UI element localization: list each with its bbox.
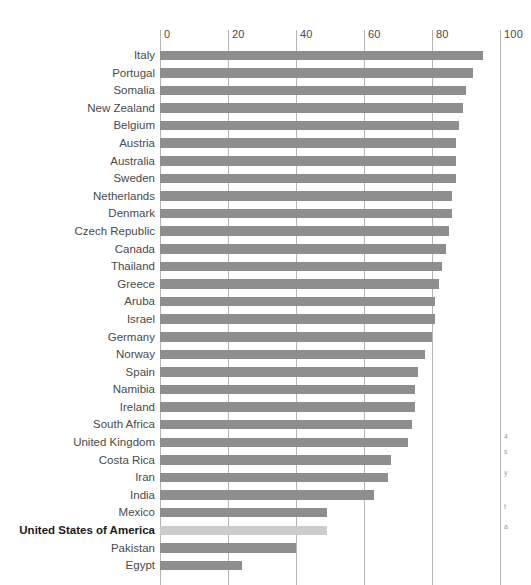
bar-label-united-kingdom: United Kingdom (0, 436, 155, 449)
right-margin-fragment: s (504, 447, 508, 456)
bar-row: Mexico (0, 506, 531, 524)
bar-row: Belgium (0, 119, 531, 137)
bar-row: Norway (0, 348, 531, 366)
bar-row: Somalia (0, 84, 531, 102)
bar-label-ireland: Ireland (0, 401, 155, 414)
bar-label-belgium: Belgium (0, 119, 155, 132)
bar-portugal (160, 68, 473, 78)
bar-greece (160, 279, 439, 289)
bar-row: Denmark (0, 207, 531, 225)
right-margin-fragment: a (504, 522, 508, 531)
bar-label-denmark: Denmark (0, 207, 155, 220)
bar-spain (160, 367, 418, 377)
bar-label-egypt: Egypt (0, 559, 155, 572)
bar-row: Thailand (0, 260, 531, 278)
bar-ireland (160, 402, 415, 412)
right-margin-fragment: 4 (504, 432, 508, 441)
bar-label-australia: Australia (0, 155, 155, 168)
bar-label-germany: Germany (0, 331, 155, 344)
bar-label-south-africa: South Africa (0, 418, 155, 431)
right-margin-text-fragments: 4syta (504, 20, 531, 580)
bar-new-zealand (160, 103, 463, 113)
bar-row: Greece (0, 278, 531, 296)
bar-label-canada: Canada (0, 243, 155, 256)
bar-italy (160, 51, 483, 61)
bar-costa-rica (160, 455, 391, 465)
bar-label-new-zealand: New Zealand (0, 102, 155, 115)
bar-label-czech-republic: Czech Republic (0, 225, 155, 238)
bar-mexico (160, 508, 327, 518)
bar-label-greece: Greece (0, 278, 155, 291)
bar-row: Italy (0, 49, 531, 67)
bar-belgium (160, 121, 459, 131)
bar-label-india: India (0, 489, 155, 502)
bar-row: Australia (0, 155, 531, 173)
x-tick-label-40: 40 (300, 28, 313, 40)
bar-label-thailand: Thailand (0, 260, 155, 273)
bar-label-pakistan: Pakistan (0, 542, 155, 555)
bar-label-namibia: Namibia (0, 383, 155, 396)
bar-row: Israel (0, 313, 531, 331)
bar-canada (160, 244, 446, 254)
bar-row: Egypt (0, 559, 531, 577)
x-tick-label-0: 0 (164, 28, 170, 40)
bar-row: Sweden (0, 172, 531, 190)
bar-label-united-states-of-america: United States of America (0, 524, 155, 537)
bar-thailand (160, 262, 442, 272)
bar-denmark (160, 209, 452, 219)
bar-label-portugal: Portugal (0, 67, 155, 80)
bar-netherlands (160, 191, 452, 201)
bar-label-austria: Austria (0, 137, 155, 150)
bar-label-italy: Italy (0, 49, 155, 62)
bar-pakistan (160, 543, 296, 553)
bar-label-netherlands: Netherlands (0, 190, 155, 203)
bar-rows: ItalyPortugalSomaliaNew ZealandBelgiumAu… (0, 49, 531, 577)
bar-czech-republic (160, 226, 449, 236)
bar-row: New Zealand (0, 102, 531, 120)
bar-south-africa (160, 420, 412, 430)
bar-germany (160, 332, 432, 342)
bar-egypt (160, 561, 242, 571)
bar-united-states-of-america (160, 526, 327, 536)
bar-norway (160, 350, 425, 360)
bar-israel (160, 314, 435, 324)
bar-row: South Africa (0, 418, 531, 436)
bar-label-somalia: Somalia (0, 84, 155, 97)
bar-row: Ireland (0, 401, 531, 419)
bar-row: United Kingdom (0, 436, 531, 454)
bar-iran (160, 473, 388, 483)
bar-united-kingdom (160, 438, 408, 448)
bar-aruba (160, 297, 435, 307)
bar-austria (160, 138, 456, 148)
bar-namibia (160, 385, 415, 395)
bar-sweden (160, 174, 456, 184)
bar-row: Spain (0, 366, 531, 384)
bar-label-sweden: Sweden (0, 172, 155, 185)
bar-label-mexico: Mexico (0, 506, 155, 519)
x-tick-label-20: 20 (232, 28, 245, 40)
bar-label-spain: Spain (0, 366, 155, 379)
right-margin-fragment: y (504, 468, 508, 477)
bar-label-costa-rica: Costa Rica (0, 454, 155, 467)
bar-row: United States of America (0, 524, 531, 542)
bar-label-aruba: Aruba (0, 295, 155, 308)
bar-row: Germany (0, 331, 531, 349)
bar-row: Czech Republic (0, 225, 531, 243)
bar-row: Austria (0, 137, 531, 155)
bar-australia (160, 156, 456, 166)
bar-label-norway: Norway (0, 348, 155, 361)
bar-row: Namibia (0, 383, 531, 401)
bar-row: Portugal (0, 67, 531, 85)
bar-row: Iran (0, 471, 531, 489)
bar-india (160, 490, 374, 500)
bar-label-iran: Iran (0, 471, 155, 484)
bar-row: Aruba (0, 295, 531, 313)
right-margin-fragment: t (504, 502, 506, 511)
x-tick-label-60: 60 (368, 28, 381, 40)
bar-row: India (0, 489, 531, 507)
bar-row: Netherlands (0, 190, 531, 208)
bar-row: Costa Rica (0, 454, 531, 472)
x-tick-label-80: 80 (436, 28, 449, 40)
bar-somalia (160, 86, 466, 96)
